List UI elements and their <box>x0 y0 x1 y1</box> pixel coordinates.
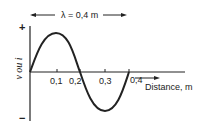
arrow-left-icon <box>30 13 36 17</box>
y-positive-label: + <box>19 22 25 32</box>
arrow-right-icon <box>154 76 160 80</box>
sine-wave-plot <box>0 0 205 128</box>
tick-label-0-2: 0,2 <box>69 76 82 86</box>
x-axis-label: Distance, m <box>145 82 193 92</box>
tick-label-0-4: 0,4 <box>130 75 143 85</box>
arrow-right-icon <box>121 13 127 17</box>
y-negative-label: − <box>19 113 25 123</box>
y-axis-label: v ou i <box>13 54 24 84</box>
tick-label-0-3: 0,3 <box>99 76 112 86</box>
wavelength-label: λ = 0,4 m <box>61 10 98 20</box>
tick-label-0-1: 0,1 <box>50 76 63 86</box>
